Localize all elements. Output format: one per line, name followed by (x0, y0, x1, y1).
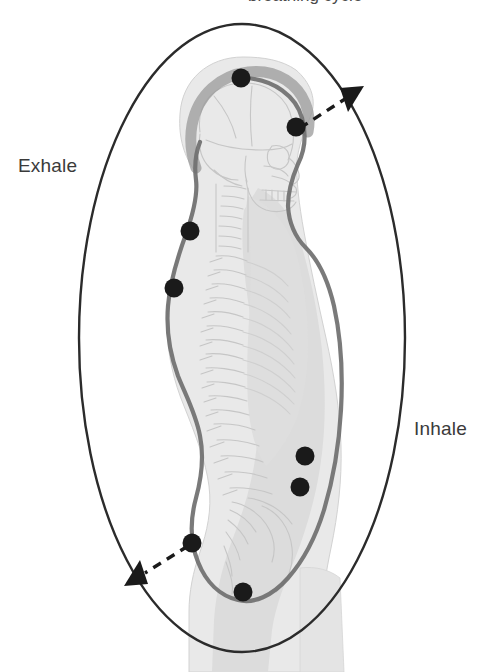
cranium-marker (232, 69, 251, 88)
exhale-label: Exhale (18, 155, 77, 177)
upper-thoracic-marker (181, 222, 200, 241)
face-marker (287, 118, 306, 137)
lower-abdomen-marker (291, 478, 310, 497)
sacrum-marker (183, 534, 202, 553)
clipped-title-text: breathing cycle (248, 0, 362, 6)
inhale-label: Inhale (414, 418, 467, 440)
mid-thoracic-marker (165, 279, 184, 298)
thigh-fill (300, 567, 344, 672)
diagram-canvas (0, 0, 496, 672)
exhale-arrow (124, 546, 188, 586)
upper-abdomen-marker (296, 447, 315, 466)
breathing-cycle-diagram: Exhale Inhale breathing cycle (0, 0, 496, 672)
pelvic-floor-marker (234, 583, 253, 602)
